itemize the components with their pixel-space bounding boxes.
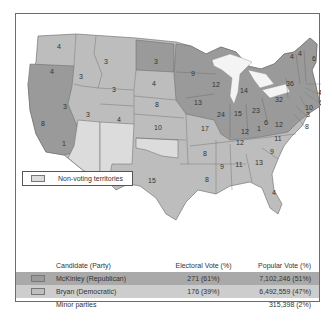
popular-vote: 7,102,246 (51%) [259, 272, 311, 285]
state-electoral-label: 10 [154, 124, 162, 131]
header-popular: Popular Vote (%) [258, 259, 311, 272]
state-electoral-label: 3 [79, 73, 83, 80]
state-electoral-label: 3 [154, 58, 158, 65]
state-electoral-label: 1 [257, 125, 261, 132]
header-candidate: Candidate (Party) [56, 259, 111, 272]
state-electoral-label: 1 [62, 140, 66, 147]
state-electoral-label: 4 [298, 50, 302, 57]
state-electoral-label: 15 [148, 177, 156, 184]
territory-legend-label: Non-voting territories [58, 175, 123, 182]
state-electoral-label: 8 [155, 101, 159, 108]
state-electoral-label: 12 [236, 139, 244, 146]
state-electoral-label: 3 [112, 86, 116, 93]
state-electoral-label: 6 [264, 119, 268, 126]
north-dakota-region [136, 40, 174, 72]
mckinley-swatch [31, 275, 45, 282]
state-electoral-label: 8 [203, 150, 207, 157]
callout-electoral-label: 8 [305, 123, 309, 130]
state-electoral-label: 4 [50, 68, 54, 75]
map-figure: 4433343833481011591312172415142332366121… [15, 13, 320, 302]
results-header-row: Candidate (Party) Electoral Vote (%) Pop… [16, 259, 319, 272]
state-electoral-label: 4 [57, 43, 61, 50]
state-electoral-label: 9 [191, 70, 195, 77]
state-electoral-label: 3 [86, 111, 90, 118]
state-electoral-label: 9 [220, 163, 224, 170]
state-electoral-label: 12 [241, 128, 249, 135]
electoral-vote: 176 (39%) [166, 285, 241, 298]
candidate-name: Minor parties [56, 298, 96, 311]
results-row-bryan: Bryan (Democratic) 176 (39%) 6,492,559 (… [16, 285, 319, 298]
candidate-name: McKinley (Republican) [56, 272, 126, 285]
state-electoral-label: 8 [205, 176, 209, 183]
results-row-minor: Minor parties 315,398 (2%) [16, 298, 319, 311]
electoral-vote: 271 (61%) [166, 272, 241, 285]
callout-electoral-label: 3 [306, 111, 310, 118]
results-row-mckinley: McKinley (Republican) 271 (61%) 7,102,24… [16, 272, 319, 285]
results-table: Candidate (Party) Electoral Vote (%) Pop… [16, 259, 319, 311]
callout-electoral-label: 10 [305, 104, 313, 111]
popular-vote: 315,398 (2%) [269, 298, 311, 311]
state-electoral-label: 12 [275, 121, 283, 128]
callout-electoral-label: 6 [319, 99, 321, 106]
state-electoral-label: 12 [212, 81, 220, 88]
callout-electoral-label: 4 [318, 89, 321, 96]
state-electoral-label: 4 [290, 53, 294, 60]
state-electoral-label: 8 [41, 120, 45, 127]
bryan-swatch [31, 288, 45, 295]
election-map: 4433343833481011591312172415142332366121… [16, 14, 321, 239]
state-electoral-label: 3 [63, 103, 67, 110]
popular-vote: 6,492,559 (47%) [259, 285, 311, 298]
territory-swatch [31, 175, 45, 182]
state-electoral-label: 14 [240, 87, 248, 94]
state-electoral-label: 4 [272, 189, 276, 196]
state-electoral-label: 9 [270, 148, 274, 155]
state-electoral-label: 13 [255, 159, 263, 166]
state-electoral-label: 4 [152, 80, 156, 87]
header-electoral: Electoral Vote (%) [166, 259, 241, 272]
state-electoral-label: 3 [104, 58, 108, 65]
state-electoral-label: 24 [217, 111, 225, 118]
state-electoral-label: 15 [234, 110, 242, 117]
state-electoral-label: 17 [201, 125, 209, 132]
state-electoral-label: 4 [117, 116, 121, 123]
state-electoral-label: 36 [286, 80, 294, 87]
territory-legend: Non-voting territories [22, 171, 133, 186]
state-electoral-label: 32 [275, 96, 283, 103]
state-electoral-label: 11 [235, 161, 242, 168]
state-electoral-label: 6 [312, 55, 316, 62]
state-electoral-label: 23 [252, 107, 260, 114]
state-electoral-label: 13 [194, 99, 202, 106]
candidate-name: Bryan (Democratic) [56, 285, 116, 298]
state-electoral-label: 11 [274, 135, 281, 142]
